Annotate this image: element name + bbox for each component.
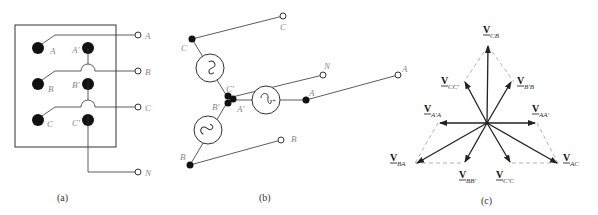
label-b-prime: B' <box>72 80 80 90</box>
source-b <box>194 116 222 144</box>
phasor-cc-prime <box>465 82 487 123</box>
terminal-label-a: A <box>144 31 151 41</box>
open-terminal-a <box>135 32 141 38</box>
caption-a: (a) <box>57 192 68 204</box>
svg-text:B'B: B'B <box>524 83 535 91</box>
caption-c: (c) <box>481 195 492 207</box>
label-v-b-prime-b: V B'B <box>517 75 535 91</box>
label-a-prime: A' <box>71 45 80 55</box>
label-v-ac: V AC <box>563 152 579 168</box>
source-c <box>196 54 224 82</box>
terminal-label-c: C <box>145 103 152 113</box>
node-label-a: A <box>308 88 315 98</box>
open-terminal-a <box>395 72 401 78</box>
svg-text:BB': BB' <box>466 177 477 185</box>
phasor-ba <box>417 123 487 163</box>
source-a: + <box>252 86 280 114</box>
caption-b: (b) <box>259 192 271 204</box>
terminal-label-a: A <box>401 64 408 74</box>
node-label-c: C <box>181 43 188 53</box>
svg-text:CC': CC' <box>448 83 459 91</box>
label-v-c-prime-c: V C'C <box>496 169 514 185</box>
label-v-ba: V BA <box>390 152 406 168</box>
label-c: C <box>47 119 54 129</box>
svg-text:+: + <box>272 97 276 105</box>
label-v-cb: V CB <box>483 24 500 40</box>
open-terminal-c <box>135 104 141 110</box>
label-v-cc-prime: V CC' <box>441 75 459 91</box>
open-terminal-b <box>135 68 141 74</box>
label-v-aa-prime: V AA' <box>532 103 550 119</box>
label-v-a-prime-a: V A'A <box>424 103 442 119</box>
phasor-ac <box>487 123 557 163</box>
svg-text:AA': AA' <box>538 111 550 119</box>
label-v-bb-prime: V BB' <box>459 169 477 185</box>
node-label-b-prime: B' <box>212 102 220 112</box>
svg-text:A'A: A'A <box>430 111 442 119</box>
panel-c: V CB V CC' V B'B V A'A V AA' V BA <box>390 24 579 207</box>
label-a: A <box>49 46 56 56</box>
node-label-a-prime: A' <box>236 104 245 114</box>
panel-a: A A' B B' C C' A B C N (a) <box>15 25 152 204</box>
open-terminal-b <box>278 137 284 143</box>
label-b: B <box>48 84 54 94</box>
svg-text:AC: AC <box>569 160 579 168</box>
terminal-label-b: B <box>145 67 151 77</box>
terminal-label-b: B <box>291 134 297 144</box>
terminal-label-c: C <box>280 22 287 32</box>
phasor-b-prime-b <box>487 82 511 123</box>
open-terminal-n <box>320 72 326 78</box>
svg-text:CB: CB <box>490 32 500 40</box>
node-label-b: B <box>180 152 186 162</box>
phasor-cb <box>487 46 488 123</box>
svg-text:C'C: C'C <box>503 177 514 185</box>
open-terminal-n <box>135 169 141 175</box>
terminal-label-n: N <box>144 168 152 178</box>
terminal-label-n: N <box>323 61 331 71</box>
terminal-box <box>15 25 116 147</box>
svg-text:BA: BA <box>397 160 406 168</box>
panel-b: + C C' B' A' A B C N A B (b) <box>180 13 408 204</box>
label-c-prime: C' <box>72 118 81 128</box>
open-terminal-c <box>280 13 286 19</box>
node-label-c-prime: C' <box>226 84 235 94</box>
